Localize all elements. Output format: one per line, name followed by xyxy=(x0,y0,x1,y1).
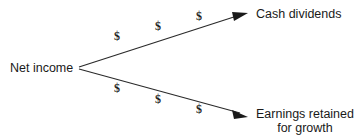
upper-arrowhead-icon xyxy=(232,12,248,21)
dividend-flow-diagram: Net income Cash dividends Earnings retai… xyxy=(0,0,363,138)
dollar-icon-upper-2: $ xyxy=(155,20,161,32)
lower-arrowhead-icon xyxy=(232,110,248,119)
lower-branch-arrow xyxy=(79,69,248,119)
dollar-icon-lower-1: $ xyxy=(114,82,120,94)
dollar-icon-upper-3: $ xyxy=(196,10,202,22)
lower-branch-line xyxy=(79,69,240,113)
dollar-icon-upper-1: $ xyxy=(114,30,120,42)
node-label-earnings-retained: Earnings retainedfor growth xyxy=(256,107,354,135)
node-label-net-income: Net income xyxy=(10,61,73,75)
node-label-cash-dividends: Cash dividends xyxy=(256,7,341,21)
earnings-retained-line1: Earnings retained xyxy=(256,107,354,121)
dollar-icon-lower-3: $ xyxy=(196,103,202,115)
upper-branch-arrow xyxy=(79,12,248,67)
earnings-retained-line2: for growth xyxy=(277,121,333,135)
dollar-icon-lower-2: $ xyxy=(155,93,161,105)
